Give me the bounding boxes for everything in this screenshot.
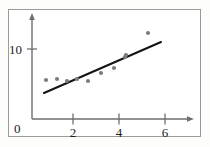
figure-root: 10 0 2 4 6	[0, 0, 210, 147]
scatter-plot-canvas	[9, 10, 200, 136]
y-axis-arrow-icon	[29, 13, 35, 20]
data-point	[124, 53, 128, 57]
x-axis-arrow-icon	[187, 116, 194, 122]
x-tick-label-4: 4	[116, 126, 123, 139]
data-point	[99, 71, 103, 75]
data-point	[65, 79, 69, 83]
x-axis	[32, 114, 194, 125]
x-tick-label-2: 2	[70, 126, 77, 139]
x-tick-label-6: 6	[162, 126, 169, 139]
data-point	[86, 79, 90, 83]
data-point	[146, 31, 150, 35]
y-axis	[27, 13, 37, 119]
regression-line	[44, 42, 161, 93]
origin-label: 0	[14, 122, 21, 135]
plot-frame: 10 0 2 4 6	[8, 9, 201, 137]
data-point-group	[44, 31, 150, 83]
y-tick-label-10: 10	[9, 43, 22, 56]
data-point	[75, 77, 79, 81]
data-point	[55, 77, 59, 81]
data-point	[112, 66, 116, 70]
data-point	[44, 78, 48, 82]
